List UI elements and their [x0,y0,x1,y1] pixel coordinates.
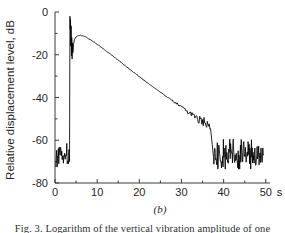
x-axis-unit-label: s [277,186,283,198]
figure-panel: 01020304050s0-20-40-60-80 Relative displ… [0,0,285,233]
y-axis-label: Relative displacement level, dB [4,20,16,180]
y-tick-label: -80 [32,177,48,189]
x-tick-label: 40 [218,186,230,198]
x-tick-label: 10 [91,186,103,198]
x-tick-label: 0 [52,186,58,198]
y-tick-label: -20 [32,49,48,61]
y-tick-label: 0 [42,6,48,18]
figure-caption: Fig. 3. Logarithm of the vertical vibrat… [0,224,285,233]
data-series-trace [56,16,264,169]
y-axis-label-text: Relative displacement level, dB [4,20,16,180]
panel-label: (b) [154,203,167,216]
series-line-0 [56,16,264,169]
figure-caption-text: Fig. 3. Logarithm of the vertical vibrat… [0,224,285,233]
y-tick-label: -60 [32,134,48,146]
chart-canvas: 01020304050s0-20-40-60-80 Relative displ… [0,0,285,233]
x-tick-label: 30 [175,186,187,198]
y-tick-label: -40 [32,92,48,104]
x-tick-label: 50 [260,186,272,198]
x-tick-label: 20 [133,186,145,198]
